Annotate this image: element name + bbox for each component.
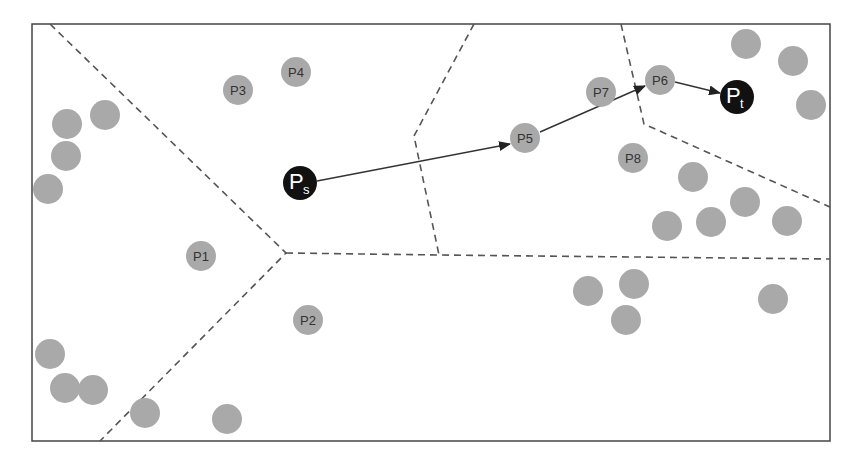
node-p5: P5	[510, 123, 540, 153]
unlabeled-node	[130, 398, 160, 428]
node-p4: P4	[281, 57, 311, 87]
target-label-main: P	[726, 83, 741, 108]
unlabeled-node	[730, 187, 760, 217]
source-node: Ps	[283, 166, 317, 200]
unlabeled-node	[758, 284, 788, 314]
path-arrow	[675, 82, 720, 93]
target-label-sub: t	[740, 96, 744, 111]
unlabeled-node	[35, 339, 65, 369]
node-p6: P6	[645, 65, 675, 95]
unlabeled-node	[78, 375, 108, 405]
unlabeled-node	[678, 162, 708, 192]
diagram-canvas: P1P2P3P4P5P6P7P8 PsPt	[0, 0, 852, 465]
unlabeled-node	[619, 269, 649, 299]
unlabeled-node	[696, 207, 726, 237]
node-label: P3	[230, 83, 246, 98]
unlabeled-node	[33, 174, 63, 204]
voronoi-boundary-line	[414, 24, 474, 255]
unlabeled-node	[212, 404, 242, 434]
unlabeled-node	[772, 206, 802, 236]
unlabeled-node	[652, 211, 682, 241]
unlabeled-node	[778, 46, 808, 76]
node-label: P4	[288, 65, 304, 80]
voronoi-diagram: P1P2P3P4P5P6P7P8 PsPt	[0, 0, 852, 465]
unlabeled-node	[573, 276, 603, 306]
node-label: P5	[517, 131, 533, 146]
node-label: P7	[593, 85, 609, 100]
voronoi-boundary-line	[286, 253, 830, 259]
node-label: P1	[193, 249, 209, 264]
node-label: P2	[300, 313, 316, 328]
unlabeled-node	[52, 109, 82, 139]
node-p1: P1	[186, 241, 216, 271]
unlabeled-node	[611, 305, 641, 335]
node-label: P6	[652, 73, 668, 88]
node-p2: P2	[293, 305, 323, 335]
target-node: Pt	[720, 80, 754, 114]
node-p7: P7	[586, 77, 616, 107]
source-label-main: P	[289, 169, 304, 194]
node-p8: P8	[618, 143, 648, 173]
unlabeled-node	[796, 90, 826, 120]
node-label: P8	[625, 151, 641, 166]
unlabeled-node	[90, 100, 120, 130]
path-arrow	[317, 144, 510, 181]
unlabeled-node	[731, 29, 761, 59]
unlabeled-node	[51, 141, 81, 171]
unlabeled-node	[50, 373, 80, 403]
node-p3: P3	[223, 75, 253, 105]
source-label-sub: s	[303, 182, 310, 197]
